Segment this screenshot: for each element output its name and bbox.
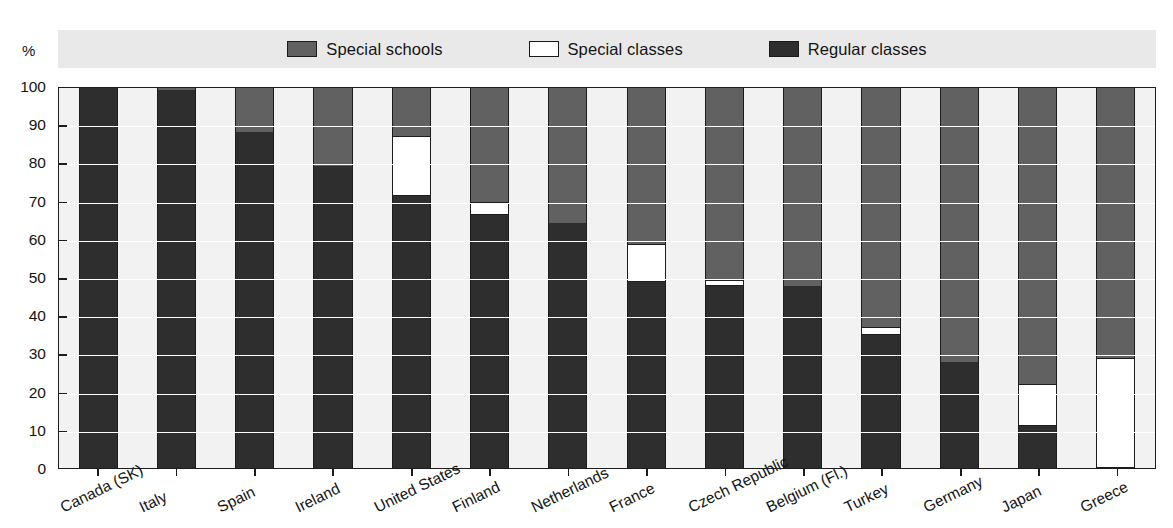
y-axis-tick-label: 0	[37, 460, 46, 478]
legend-label-regular-classes: Regular classes	[808, 40, 927, 59]
bar-segment-special-schools	[549, 88, 586, 223]
y-axis-unit-label: %	[22, 42, 35, 59]
bar-segment-special-schools	[941, 88, 978, 362]
bar-slot	[137, 88, 215, 468]
bar-slot	[764, 88, 842, 468]
x-axis-tick-mark	[254, 469, 256, 476]
y-axis-tick-label: 60	[29, 230, 46, 248]
x-axis-tick-label: Italy	[136, 488, 169, 517]
chart-legend: Special schools Special classes Regular …	[58, 30, 1156, 68]
x-axis-tick-mark	[646, 469, 648, 476]
legend-swatch-special-schools	[287, 41, 317, 57]
x-axis-tick-mark	[881, 469, 883, 476]
x-axis-tick-mark	[411, 469, 413, 476]
x-axis-slot: Germany	[921, 469, 999, 528]
y-axis-tick-label: 90	[29, 116, 46, 134]
bar-segment-special-schools	[471, 88, 508, 202]
y-axis-labels: 1009080706050403020100	[0, 87, 52, 469]
x-axis-slot: Italy	[136, 469, 214, 528]
bar-segment-special-schools	[862, 88, 899, 327]
bar-slot	[450, 88, 528, 468]
y-axis-tick-mark	[58, 278, 67, 280]
x-axis-slot: Finland	[450, 469, 528, 528]
x-axis-slot: Netherlands	[529, 469, 607, 528]
bar-segment-special-schools	[784, 88, 821, 286]
x-axis-tick-label: Finland	[450, 478, 504, 516]
x-axis-slot: Japan	[999, 469, 1077, 528]
stacked-bar[interactable]	[392, 88, 431, 468]
bar-segment-regular-classes	[236, 132, 273, 468]
legend-swatch-regular-classes	[769, 41, 799, 57]
bar-segment-special-classes	[1019, 384, 1056, 426]
x-axis-tick-label: Ireland	[293, 480, 343, 517]
y-axis-tick-mark	[58, 431, 67, 433]
bar-slot	[685, 88, 763, 468]
x-axis-tick-mark	[803, 469, 805, 476]
bar-segment-regular-classes	[706, 286, 743, 468]
stacked-bar[interactable]	[548, 88, 587, 468]
bar-segment-regular-classes	[549, 223, 586, 468]
x-axis-slot: United States	[372, 469, 450, 528]
x-axis-slot: Belgium (Fl.)	[764, 469, 842, 528]
bar-segment-special-schools	[628, 88, 665, 244]
bar-segment-special-schools	[1019, 88, 1056, 384]
x-axis-tick-label: Spain	[214, 483, 258, 517]
x-axis-slot: Greece	[1078, 469, 1156, 528]
x-axis-tick-label: Greece	[1077, 478, 1131, 516]
x-axis-slot: Czech Republic	[685, 469, 763, 528]
stacked-bar[interactable]	[1096, 88, 1135, 468]
stacked-bar[interactable]	[313, 88, 352, 468]
bar-segment-special-schools	[706, 88, 743, 280]
x-axis-tick-mark	[568, 469, 570, 476]
legend-item-special-schools: Special schools	[287, 40, 442, 59]
stacked-bar[interactable]	[627, 88, 666, 468]
legend-item-special-classes: Special classes	[529, 40, 683, 59]
y-axis-tick-mark	[58, 125, 67, 127]
y-axis-tick-mark	[58, 163, 67, 165]
stacked-bar[interactable]	[783, 88, 822, 468]
bar-segment-regular-classes	[80, 88, 117, 468]
x-axis-tick-label: Turkey	[842, 480, 892, 517]
bar-segment-regular-classes	[1019, 426, 1056, 468]
x-axis-tick-mark	[97, 469, 99, 476]
bar-segment-special-classes	[393, 136, 430, 197]
legend-label-special-schools: Special schools	[326, 40, 442, 59]
stacked-bar[interactable]	[470, 88, 509, 468]
bar-segment-special-schools	[314, 88, 351, 166]
plot-area	[58, 87, 1156, 469]
bar-segment-regular-classes	[471, 215, 508, 468]
x-axis-tick-mark	[725, 469, 727, 476]
bar-slot	[920, 88, 998, 468]
x-axis-labels: Canada (SK)ItalySpainIrelandUnited State…	[58, 469, 1156, 528]
stacked-bar[interactable]	[157, 88, 196, 468]
stacked-bar[interactable]	[705, 88, 744, 468]
bar-slot	[294, 88, 372, 468]
bar-segment-special-schools	[236, 88, 273, 132]
y-axis-tick-label: 100	[20, 78, 46, 96]
y-axis-tick-mark	[58, 354, 67, 356]
bar-slot	[529, 88, 607, 468]
x-axis-tick-mark	[1117, 469, 1119, 476]
bar-segment-regular-classes	[314, 166, 351, 468]
stacked-bar[interactable]	[1018, 88, 1057, 468]
stacked-bar[interactable]	[861, 88, 900, 468]
bar-slot	[607, 88, 685, 468]
x-axis-tick-label: Germany	[920, 472, 985, 516]
stacked-bar[interactable]	[79, 88, 118, 468]
bar-slot	[1077, 88, 1155, 468]
y-axis-tick-label: 50	[29, 269, 46, 287]
bar-slot	[59, 88, 137, 468]
x-axis-tick-mark	[332, 469, 334, 476]
stacked-bar[interactable]	[235, 88, 274, 468]
x-axis-tick-label: Belgium (Fl.)	[763, 462, 850, 517]
bar-segment-regular-classes	[784, 286, 821, 468]
bar-segment-special-classes	[471, 202, 508, 215]
chart-root: Special schools Special classes Regular …	[0, 0, 1173, 528]
bar-segment-special-classes	[1097, 358, 1134, 468]
y-axis-tick-mark	[58, 202, 67, 204]
bar-slot	[372, 88, 450, 468]
bar-segment-special-schools	[393, 88, 430, 136]
x-axis-tick-mark	[1038, 469, 1040, 476]
x-axis-slot: Ireland	[293, 469, 371, 528]
stacked-bar[interactable]	[940, 88, 979, 468]
